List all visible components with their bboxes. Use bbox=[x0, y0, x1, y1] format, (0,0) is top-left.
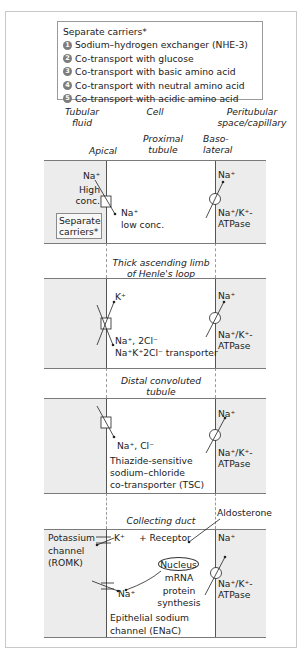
transport-arrows-overlay bbox=[0, 0, 303, 655]
atpase-pump-icon bbox=[210, 430, 221, 441]
atpase-pump-icon bbox=[210, 313, 221, 324]
atpase-pump-icon bbox=[211, 568, 222, 579]
